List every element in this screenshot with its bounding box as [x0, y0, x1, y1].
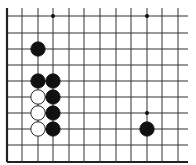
black-stone[interactable] [46, 122, 60, 136]
black-stone[interactable] [140, 122, 154, 136]
black-stone[interactable] [46, 106, 60, 120]
black-stone[interactable] [46, 74, 60, 88]
black-stone[interactable] [31, 74, 45, 88]
black-stone[interactable] [31, 42, 45, 56]
white-stone[interactable] [31, 90, 45, 104]
white-stone[interactable] [31, 106, 45, 120]
star-point-icon [145, 14, 149, 18]
white-stone[interactable] [31, 122, 45, 136]
go-board[interactable] [0, 0, 196, 165]
star-point-icon [145, 111, 149, 115]
black-stone[interactable] [46, 90, 60, 104]
go-board-grid[interactable] [0, 0, 196, 165]
star-point-icon [51, 14, 55, 18]
